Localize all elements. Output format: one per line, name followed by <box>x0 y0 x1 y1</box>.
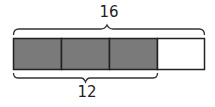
total-brace <box>14 25 205 35</box>
part-label: 12 <box>77 85 96 100</box>
segment-2 <box>62 39 110 70</box>
segment-3 <box>110 39 158 70</box>
part-brace <box>14 73 158 82</box>
segment-1 <box>14 39 62 70</box>
total-label: 16 <box>99 5 118 20</box>
segment-4 <box>158 39 205 70</box>
